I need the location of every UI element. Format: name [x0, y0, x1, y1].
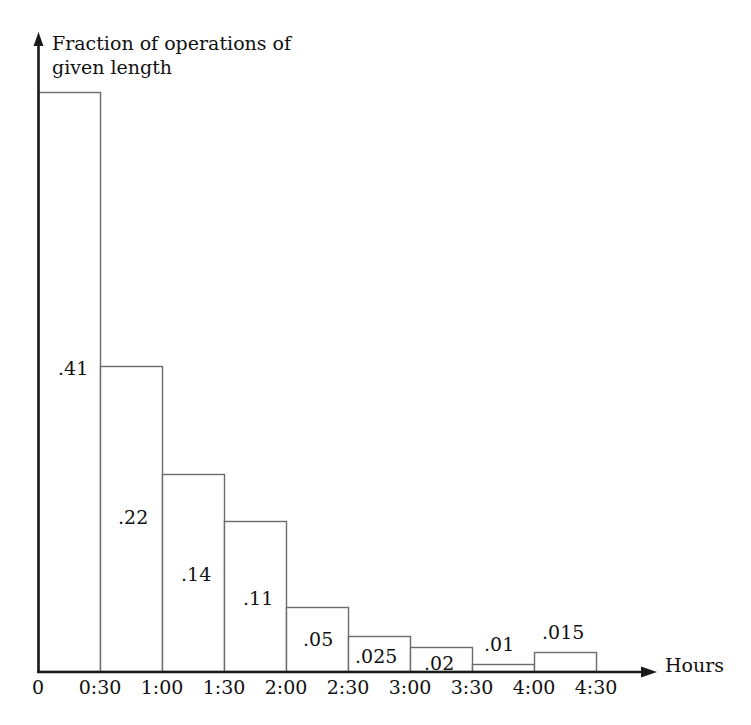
bar-8 [535, 653, 597, 672]
xtick-label-0: 0 [32, 676, 44, 698]
xtick-label-5: 2:30 [327, 676, 370, 698]
bar-value-label-6: .02 [424, 652, 454, 674]
histogram-svg [0, 0, 751, 725]
xtick-label-2: 1:00 [141, 676, 184, 698]
bar-7 [473, 665, 535, 672]
xtick-label-3: 1:30 [203, 676, 246, 698]
bar-value-label-4: .05 [303, 628, 333, 650]
chart-page: Fraction of operations of given length H… [0, 0, 751, 725]
xtick-label-4: 2:00 [265, 676, 308, 698]
x-axis-title: Hours [665, 653, 724, 677]
bar-value-label-2: .14 [181, 563, 211, 585]
bar-value-label-3: .11 [243, 587, 273, 609]
bar-value-label-5: .025 [355, 645, 397, 667]
bar-value-label-0: .41 [58, 357, 88, 379]
xtick-label-8: 4:00 [513, 676, 556, 698]
xtick-label-1: 0:30 [79, 676, 122, 698]
xtick-label-9: 4:30 [575, 676, 618, 698]
xtick-label-6: 3:00 [389, 676, 432, 698]
bar-0 [39, 93, 101, 672]
y-axis-title: Fraction of operations of given length [52, 31, 291, 80]
bar-value-label-1: .22 [118, 506, 148, 528]
bar-value-label-8: .015 [542, 621, 584, 643]
bars-group [39, 93, 597, 672]
bar-value-label-7: .01 [484, 633, 514, 655]
xtick-label-7: 3:30 [451, 676, 494, 698]
